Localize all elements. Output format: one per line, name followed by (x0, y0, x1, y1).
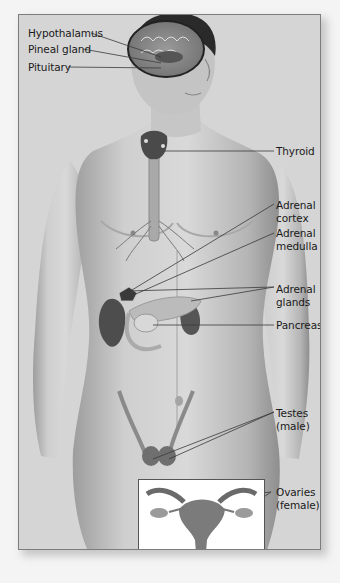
label-hypothalamus: Hypothalamus (28, 27, 103, 39)
label-testes-line2: (male) (276, 420, 310, 432)
body-silhouette (33, 15, 309, 550)
label-adrenal-medulla-line1: Adrenal (276, 227, 316, 239)
label-thyroid: Thyroid (276, 145, 315, 157)
uterus-illustration (139, 480, 264, 550)
label-ovaries-line1: Ovaries (276, 486, 315, 498)
label-adrenal-cortex-line2: cortex (276, 212, 309, 224)
label-adrenal-cortex-line1: Adrenal (276, 199, 316, 211)
label-testes-line1: Testes (276, 407, 308, 419)
label-adrenal-medulla-line2: medulla (276, 240, 318, 252)
label-ovaries-line2: (female) (276, 499, 320, 511)
label-adrenal-glands-line1: Adrenal (276, 283, 316, 295)
label-pancreas: Pancreas (276, 319, 321, 331)
label-adrenal-glands-line2: glands (276, 296, 310, 308)
label-pineal-gland: Pineal gland (28, 43, 91, 55)
label-pituitary: Pituitary (28, 61, 71, 73)
diagram-frame: Hypothalamus Pineal gland Pituitary Thyr… (18, 14, 321, 550)
ovaries-inset (138, 479, 265, 550)
